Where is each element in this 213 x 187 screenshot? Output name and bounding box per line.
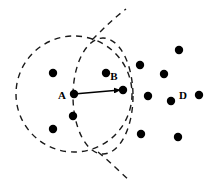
point-2 [102,69,110,77]
point-4 [49,125,57,133]
diagram-canvas: A B D [0,0,213,187]
point-1 [49,69,57,77]
point-3 [69,112,77,120]
point-d [195,91,203,99]
point-9 [167,97,175,105]
label-d: D [179,89,187,101]
label-b: B [110,70,118,82]
point-8 [144,92,152,100]
dashed-arc-tail-lower [98,152,130,181]
point-11 [174,133,182,141]
point-10 [137,130,145,138]
scatter-points-group [49,46,183,141]
point-5 [136,61,144,69]
vector-group [74,90,120,94]
point-6 [175,46,183,54]
point-7 [160,70,168,78]
figure-svg: A B D [0,0,213,187]
dashed-circle-b [73,38,133,154]
point-b [119,86,127,94]
dashed-arc-tail [92,9,126,40]
vector-a-to-b [74,90,120,94]
point-a [70,90,78,98]
label-a: A [58,89,66,101]
